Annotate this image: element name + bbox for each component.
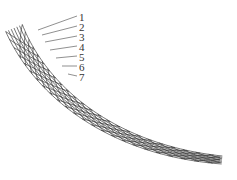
leader-line-7 bbox=[68, 74, 77, 76]
strand bbox=[11, 29, 222, 161]
leader-line-2 bbox=[42, 26, 77, 35]
cross-strand bbox=[159, 143, 199, 162]
leader-line-5 bbox=[56, 56, 77, 58]
lattice-diagram: 1 2 3 4 5 6 7 bbox=[0, 0, 237, 180]
lattice-strands bbox=[6, 25, 223, 164]
layer-labels: 1 2 3 4 5 6 7 bbox=[79, 11, 85, 83]
strand bbox=[6, 31, 222, 163]
leader-lines bbox=[38, 16, 77, 76]
leader-line-4 bbox=[50, 46, 77, 50]
label-7: 7 bbox=[79, 71, 85, 83]
leader-line-1 bbox=[38, 16, 77, 30]
leader-line-3 bbox=[45, 36, 77, 42]
strand bbox=[14, 28, 222, 160]
strand bbox=[8, 30, 221, 162]
